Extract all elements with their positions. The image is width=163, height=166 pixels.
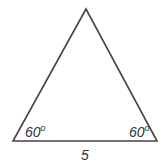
triangle-diagram: 60o 60o 5 <box>0 0 163 166</box>
angle-label-bottom-left: 60o <box>25 123 46 140</box>
angle-label-bottom-right: 60o <box>129 123 150 140</box>
triangle-shape <box>13 9 157 141</box>
base-length-label: 5 <box>81 147 89 163</box>
